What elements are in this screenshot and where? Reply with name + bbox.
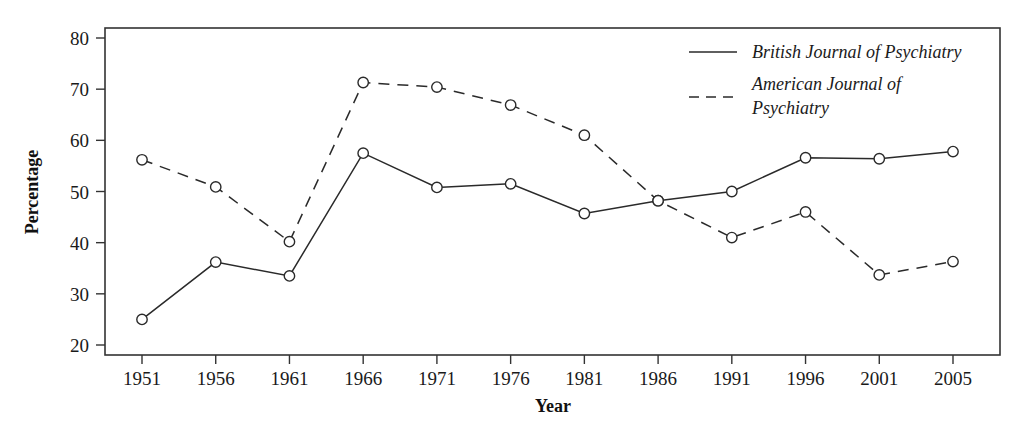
x-tick-label: 1991 [713,368,751,389]
data-point-marker [211,182,221,192]
data-point-marker [505,179,515,189]
data-point-marker [653,196,663,206]
x-tick-label: 1961 [270,368,308,389]
data-point-marker [948,146,958,156]
x-tick-label: 1971 [418,368,456,389]
data-point-marker [358,77,368,87]
data-point-marker [432,182,442,192]
data-point-marker [211,257,221,267]
line-chart: 20304050607080 1951195619611966197119761… [0,0,1026,433]
data-point-marker [800,153,810,163]
legend-label-american-journal-line2: Psychiatry [751,98,829,118]
legend-label-american-journal-line1: American Journal of [751,74,904,94]
x-axis-tick-labels: 1951195619611966197119761981198619911996… [123,368,972,389]
data-point-marker [137,314,147,324]
y-tick-label: 20 [70,335,89,356]
data-point-marker [284,236,294,246]
data-point-marker [579,208,589,218]
x-axis-ticks [142,355,953,364]
data-point-marker [432,82,442,92]
legend-label-british-journal: British Journal of Psychiatry [752,42,961,62]
x-axis-title: Year [535,396,571,416]
chart-legend: British Journal of Psychiatry American J… [689,42,961,118]
chart-figure: 20304050607080 1951195619611966197119761… [0,0,1026,433]
data-point-marker [505,100,515,110]
y-axis-ticks [96,38,105,345]
data-point-marker [800,207,810,217]
series-line-british [142,152,953,320]
x-tick-label: 2001 [860,368,898,389]
series-markers [137,77,958,324]
y-tick-label: 60 [70,130,89,151]
x-tick-label: 1951 [123,368,161,389]
data-point-marker [948,256,958,266]
x-tick-label: 1966 [344,368,382,389]
data-point-marker [579,130,589,140]
data-point-marker [727,232,737,242]
data-point-marker [727,186,737,196]
y-axis-tick-labels: 20304050607080 [70,28,89,356]
data-point-marker [284,271,294,281]
x-tick-label: 1976 [492,368,530,389]
x-tick-label: 1981 [565,368,603,389]
y-tick-label: 80 [70,28,89,49]
y-axis-title: Percentage [22,150,42,235]
x-tick-label: 1986 [639,368,677,389]
data-point-marker [358,148,368,158]
series-lines [142,83,953,320]
x-tick-label: 1956 [197,368,235,389]
x-tick-label: 2005 [934,368,972,389]
data-point-marker [874,154,884,164]
y-tick-label: 70 [70,79,89,100]
x-tick-label: 1996 [787,368,825,389]
y-tick-label: 30 [70,284,89,305]
y-tick-label: 40 [70,233,89,254]
data-point-marker [874,270,884,280]
series-line-american [142,83,953,275]
y-tick-label: 50 [70,182,89,203]
data-point-marker [137,155,147,165]
